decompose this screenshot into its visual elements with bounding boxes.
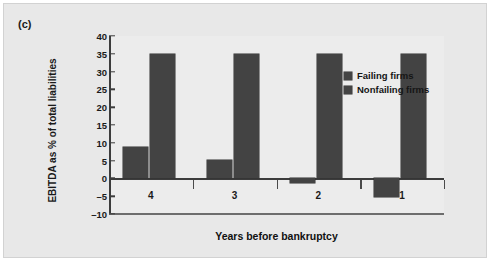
x-category-label: 2 — [277, 190, 361, 201]
x-tick-mark — [444, 180, 445, 189]
x-axis-title: Years before bankruptcy — [109, 230, 444, 242]
y-tick-label: –5 — [96, 191, 107, 202]
y-tick-label: 30 — [96, 66, 107, 77]
y-tick-mark — [109, 35, 115, 36]
bar — [317, 54, 342, 179]
x-tick-mark — [360, 180, 361, 189]
x-category-label: 4 — [109, 190, 193, 201]
legend-swatch — [344, 72, 352, 80]
legend-item: Nonfailing firms — [344, 84, 429, 95]
y-tick-label: 35 — [96, 48, 107, 59]
x-category-label: 3 — [193, 190, 277, 201]
panel-letter: (c) — [18, 18, 31, 30]
axis-bottom-line — [109, 213, 444, 214]
y-tick-mark — [109, 160, 115, 161]
y-tick-label: 5 — [102, 155, 107, 166]
y-tick-label: 40 — [96, 31, 107, 42]
y-tick-mark — [109, 124, 115, 125]
y-axis-title: EBITDA as % of total liabilities — [47, 36, 58, 226]
y-tick-label: 20 — [96, 102, 107, 113]
y-tick-mark — [109, 142, 115, 143]
y-tick-mark — [109, 178, 115, 179]
legend-label: Nonfailing firms — [357, 84, 429, 95]
y-tick-label: 15 — [96, 120, 107, 131]
legend-item: Failing firms — [344, 70, 429, 81]
y-tick-mark — [109, 89, 115, 90]
bar — [123, 147, 148, 178]
x-tick-mark — [277, 180, 278, 189]
legend-swatch — [344, 86, 352, 94]
figure-panel: (c) 4035302520151050–5–10 EBITDA as % of… — [4, 4, 486, 257]
y-tick-mark — [109, 53, 115, 54]
y-tick-label: –10 — [91, 209, 107, 220]
y-tick-mark — [109, 106, 115, 107]
x-category-label: 1 — [360, 190, 444, 201]
bar — [234, 54, 259, 179]
y-tick-label: 10 — [96, 137, 107, 148]
chart-legend: Failing firmsNonfailing firms — [344, 70, 429, 98]
y-tick-label: 0 — [102, 173, 107, 184]
bar — [290, 178, 315, 182]
x-tick-mark — [193, 180, 194, 189]
y-tick-mark — [109, 71, 115, 72]
y-tick-label: 25 — [96, 84, 107, 95]
y-tick-mark — [109, 213, 115, 214]
bar — [207, 160, 232, 178]
legend-label: Failing firms — [357, 70, 413, 81]
bar — [150, 54, 175, 179]
